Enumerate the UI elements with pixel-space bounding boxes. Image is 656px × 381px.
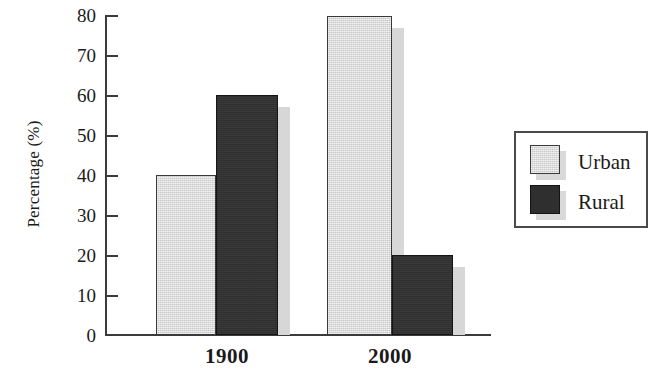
legend-item-rural: Rural <box>530 185 625 219</box>
legend-swatch-rural-wrap <box>530 185 568 219</box>
legend-label-urban: Urban <box>578 152 630 173</box>
bar-chart: Percentage (%) 80 70 60 50 40 30 20 10 0… <box>0 0 656 381</box>
dark-gray-swatch-icon <box>530 185 560 214</box>
legend-label-rural: Rural <box>578 192 625 213</box>
bar-rural-1900 <box>216 95 278 335</box>
bar-urban-1900 <box>156 175 216 335</box>
legend-item-urban: Urban <box>530 145 630 179</box>
bar-rural-2000 <box>392 255 453 335</box>
legend: Urban Rural <box>514 131 648 228</box>
x-tick-label-2000: 2000 <box>330 344 450 369</box>
light-gray-swatch-icon <box>530 145 560 174</box>
bar-urban-2000 <box>327 16 392 335</box>
x-tick-label-1900: 1900 <box>167 344 287 369</box>
legend-swatch-urban-wrap <box>530 145 568 179</box>
